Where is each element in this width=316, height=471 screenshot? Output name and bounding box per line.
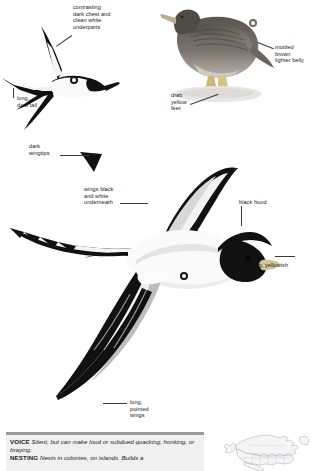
- nesting-text: Nests in colonies, on islands. Builds a: [40, 454, 144, 461]
- plumage-badge-perched: [249, 19, 257, 27]
- leader-black-hood: [241, 206, 242, 226]
- annotation-long-yellowish-bill: long, yellowish bill: [251, 262, 313, 275]
- voice-nesting-info-box: VOICE Silent, but can make loud or subdu…: [6, 432, 204, 471]
- field-guide-plate: contrasting dark chest and clean white u…: [0, 0, 316, 471]
- annotation-black-hood: black hood: [239, 199, 299, 206]
- voice-text: Silent, but can make loud or subdued qua…: [10, 438, 194, 453]
- plumage-badge-inner: [251, 21, 255, 25]
- voice-entry: VOICE Silent, but can make loud or subdu…: [10, 438, 200, 453]
- voice-keyword: VOICE: [10, 438, 30, 445]
- leader-long-dark-tail: [13, 88, 14, 98]
- annotation-mottled-brown-belly: mottled brown lighter belly: [275, 44, 316, 64]
- bird-illustration-flying-large-main: [10, 160, 280, 410]
- annotation-contrasting-chest: contrasting dark chest and clean white u…: [73, 4, 133, 30]
- plumage-badge-inner: [182, 274, 186, 278]
- nesting-keyword: NESTING: [10, 454, 38, 461]
- nesting-entry: NESTING Nests in colonies, on islands. B…: [10, 454, 200, 462]
- annotation-drab-yellow-feet: drab yellow feet: [171, 92, 211, 112]
- leader-long-pointed-wings: [103, 403, 127, 404]
- annotation-wings-black-white: wings black and white underneath: [84, 186, 132, 206]
- annotation-dark-wingtips: dark wingtips: [29, 143, 79, 156]
- plumage-badge-flying-upper-left: [70, 76, 78, 84]
- plumage-badge-inner: [72, 78, 76, 82]
- range-map: [222, 432, 312, 471]
- bird-illustration-flying-upper-left: [0, 22, 120, 142]
- annotation-long-dark-tail: long, dark tail: [17, 95, 67, 108]
- leader-long-yellowish-bill: [275, 256, 295, 257]
- plumage-badge-flying-large: [180, 272, 188, 280]
- annotation-long-pointed-wings: long, pointed wings: [130, 399, 178, 419]
